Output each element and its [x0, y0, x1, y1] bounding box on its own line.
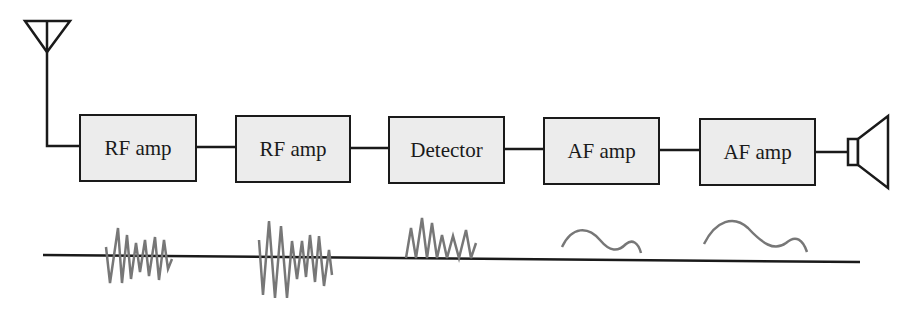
waveform-audio-large: [704, 221, 807, 252]
stage-label: RF amp: [104, 136, 171, 161]
waveform-audio-small: [562, 230, 641, 253]
stage-label: AF amp: [723, 140, 791, 165]
stage-af-amp-2: AF amp: [699, 118, 816, 186]
stage-label: AF amp: [567, 139, 635, 164]
waveform-rectified: [406, 218, 476, 258]
receiver-block-diagram: RF amp RF amp Detector AF amp AF amp: [0, 0, 910, 311]
waveform-rf-large: [259, 221, 332, 298]
speaker-icon: [848, 116, 888, 188]
stage-label: Detector: [410, 138, 482, 163]
stage-rf-amp-2: RF amp: [235, 115, 351, 183]
stage-af-amp-1: AF amp: [543, 117, 660, 185]
stage-detector: Detector: [388, 116, 505, 184]
antenna-icon: [25, 21, 79, 146]
stage-label: RF amp: [259, 137, 326, 162]
stage-rf-amp-1: RF amp: [79, 114, 197, 182]
